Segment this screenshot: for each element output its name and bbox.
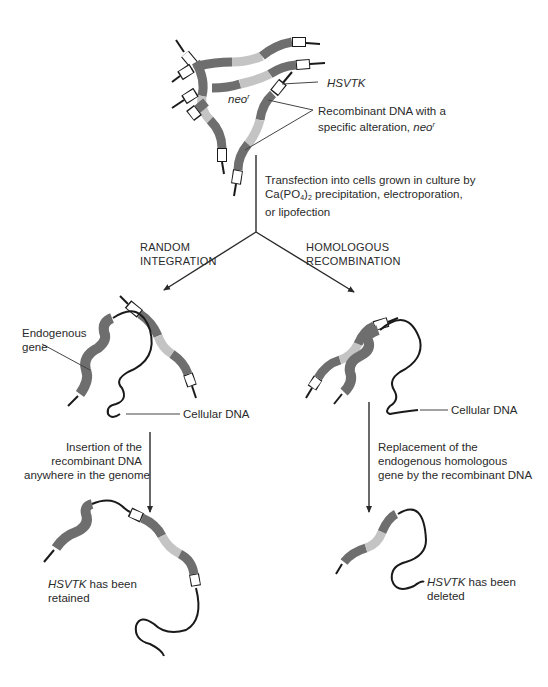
cellular-dna-right-text: Cellular DNA	[451, 404, 517, 416]
neo-sup: r	[247, 93, 249, 100]
left-result-label: HSVTK has been retained	[48, 577, 137, 605]
recombinant-line2-sup: r	[432, 121, 434, 128]
endogenous-line1: Endogenous	[22, 326, 87, 340]
right-step-line1: Replacement of the	[378, 440, 532, 454]
transfection-line3: or lipofection	[265, 205, 476, 219]
recombinant-line2: specific alteration, neor	[318, 118, 446, 134]
right-result-label: HSVTK has been deleted	[427, 575, 516, 603]
transfection-line2: Ca(PO4)2 precipitation, electroporation,	[265, 187, 476, 205]
endogenous-line2: gene	[22, 340, 87, 354]
left-step-line2: recombinant DNA	[24, 454, 142, 468]
cellular-dna-left-text: Cellular DNA	[183, 408, 249, 420]
hsvtk-label: HSVTK	[327, 76, 365, 90]
homologous-recombination-label: HOMOLOGOUS RECOMBINATION	[306, 240, 401, 268]
left-result-line2: retained	[48, 591, 137, 605]
random-line1: RANDOM	[140, 240, 217, 254]
right-endogenous-dna	[334, 320, 421, 414]
recombinant-dna-label: Recombinant DNA with a specific alterati…	[318, 104, 446, 134]
homologous-line1: HOMOLOGOUS	[306, 240, 401, 254]
left-result-line1: HSVTK has been	[48, 577, 137, 591]
transfection-label: Transfection into cells grown in culture…	[265, 173, 476, 219]
homologous-line2: RECOMBINATION	[306, 254, 401, 268]
t2a: Ca(PO	[265, 188, 300, 200]
recombinant-line1: Recombinant DNA with a	[318, 104, 446, 118]
right-result-line2: deleted	[427, 589, 516, 603]
recombinant-line2-neo: neo	[413, 121, 432, 133]
transfection-line1: Transfection into cells grown in culture…	[265, 173, 476, 187]
cellular-dna-label-right: Cellular DNA	[451, 403, 517, 417]
left-result-hsvtk: HSVTK	[48, 578, 86, 590]
neo-text: neo	[228, 93, 247, 105]
right-step-line3: gene by the recombinant DNA	[378, 468, 532, 482]
recombinant-line2-prefix: specific alteration,	[318, 121, 413, 133]
endogenous-gene-label: Endogenous gene	[22, 326, 87, 354]
t2c: precipitation, electroporation,	[312, 188, 463, 200]
left-step-label: Insertion of the recombinant DNA anywher…	[24, 440, 142, 482]
random-line2: INTEGRATION	[140, 254, 217, 268]
random-integration-label: RANDOM INTEGRATION	[140, 240, 217, 268]
right-result-dna	[336, 510, 426, 589]
right-result-line1: HSVTK has been	[427, 575, 516, 589]
left-result-rest: has been	[86, 578, 137, 590]
hsvtk-text: HSVTK	[327, 77, 365, 89]
neo-label: neor	[228, 90, 250, 106]
left-step-line1: Insertion of the	[24, 440, 142, 454]
right-result-rest: has been	[465, 576, 516, 588]
right-step-label: Replacement of the endogenous homologous…	[378, 440, 532, 482]
cellular-dna-label-left: Cellular DNA	[183, 407, 249, 421]
right-result-hsvtk: HSVTK	[427, 576, 465, 588]
left-step-line3: anywhere in the genome	[24, 468, 142, 482]
right-step-line2: endogenous homologous	[378, 454, 532, 468]
recombinant-strand	[196, 62, 224, 174]
